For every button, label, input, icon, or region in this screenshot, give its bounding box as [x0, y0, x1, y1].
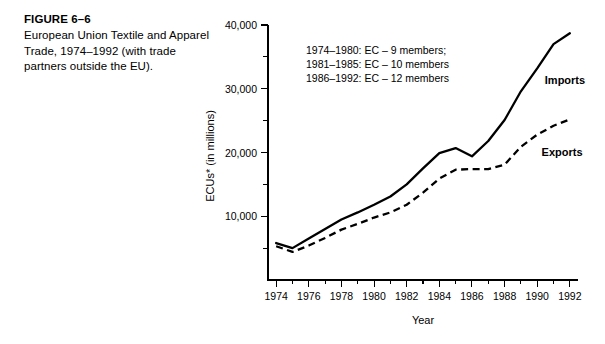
- x-tick-labels: 1974197619781980198219841986198819901992: [264, 290, 581, 302]
- x-axis-title: Year: [412, 314, 435, 326]
- figure-number: FIGURE 6–6: [24, 12, 219, 27]
- y-tick-label: 20,000: [225, 147, 257, 159]
- annotation-line-1: 1974–1980: EC – 9 members;: [306, 44, 446, 56]
- y-axis: 10,00020,00030,00040,000 ECUs* (in milli…: [204, 19, 268, 248]
- y-tick-label: 10,000: [225, 210, 257, 222]
- annotation-line-2: 1981–1985: EC – 10 members: [306, 58, 449, 70]
- series-label-exports: Exports: [542, 146, 583, 158]
- figure-caption-text: European Union Textile and Apparel Trade…: [24, 28, 219, 75]
- chart-svg: 10,00020,00030,00040,000 ECUs* (in milli…: [196, 6, 596, 336]
- x-axis: 1974197619781980198219841986198819901992…: [264, 280, 581, 326]
- y-tick-label: 30,000: [225, 83, 257, 95]
- x-ticks: [276, 280, 570, 287]
- x-tick-label: 1988: [493, 290, 517, 302]
- series-label-imports: Imports: [545, 74, 585, 86]
- annotation-block: 1974–1980: EC – 9 members; 1981–1985: EC…: [306, 44, 449, 84]
- figure-caption-block: FIGURE 6–6 European Union Textile and Ap…: [24, 12, 219, 75]
- y-tick-label: 40,000: [225, 19, 257, 31]
- x-tick-label: 1980: [362, 290, 386, 302]
- x-tick-label: 1982: [395, 290, 419, 302]
- x-tick-label: 1986: [460, 290, 484, 302]
- x-tick-label: 1990: [526, 290, 550, 302]
- x-tick-label: 1992: [558, 290, 582, 302]
- x-tick-label: 1976: [297, 290, 321, 302]
- annotation-line-3: 1986–1992: EC – 12 members: [306, 72, 449, 84]
- x-tick-label: 1974: [264, 290, 288, 302]
- x-tick-label: 1978: [330, 290, 354, 302]
- y-tick-labels: 10,00020,00030,00040,000: [225, 19, 257, 222]
- line-chart: 10,00020,00030,00040,000 ECUs* (in milli…: [196, 6, 596, 336]
- x-tick-label: 1984: [428, 290, 452, 302]
- figure-container: FIGURE 6–6 European Union Textile and Ap…: [0, 0, 605, 344]
- y-axis-title: ECUs* (in millions): [204, 110, 216, 202]
